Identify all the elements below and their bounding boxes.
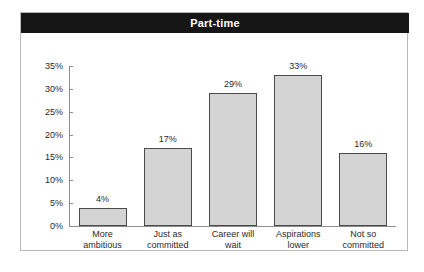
x-axis-category-label: Career willwait bbox=[200, 229, 265, 252]
x-axis-category-label-line: Just as bbox=[135, 229, 200, 240]
bar[interactable] bbox=[209, 93, 257, 226]
x-axis-category-label-line: More bbox=[70, 229, 135, 240]
bar-value-label: 33% bbox=[266, 62, 331, 71]
x-axis-category-label: Just ascommitted bbox=[135, 229, 200, 252]
bar-slot: 16% bbox=[331, 66, 396, 226]
y-axis-tick-label: 30% bbox=[45, 84, 63, 93]
y-axis-tick-labels: 0%5%10%15%20%25%30%35% bbox=[27, 33, 63, 251]
bar[interactable] bbox=[144, 148, 192, 226]
x-axis-category-labels: MoreambitiousJust ascommittedCareer will… bbox=[70, 229, 396, 252]
x-axis-category-label-line: committed bbox=[331, 240, 396, 251]
y-axis-tick-label: 25% bbox=[45, 107, 63, 116]
y-axis-tick-label: 5% bbox=[50, 199, 63, 208]
y-axis-tick-label: 10% bbox=[45, 176, 63, 185]
bar-value-label: 29% bbox=[200, 80, 265, 89]
y-axis-tick-mark bbox=[69, 135, 73, 136]
bar-value-label: 17% bbox=[135, 135, 200, 144]
y-axis-tick-label: 0% bbox=[50, 222, 63, 231]
chart-title-band: Part-time bbox=[21, 13, 409, 33]
y-axis-tick-label: 15% bbox=[45, 153, 63, 162]
y-axis-tick-mark bbox=[69, 112, 73, 113]
x-axis-category-label-line: wait bbox=[200, 240, 265, 251]
y-axis-tick-label: 20% bbox=[45, 130, 63, 139]
y-axis-tick-mark bbox=[69, 180, 73, 181]
x-axis-category-label-line: committed bbox=[135, 240, 200, 251]
bar-series: 4%17%29%33%16% bbox=[70, 66, 396, 226]
x-axis-category-label-line: Not so bbox=[331, 229, 396, 240]
x-axis-category-label: Not socommitted bbox=[331, 229, 396, 252]
y-axis-tick-mark bbox=[69, 89, 73, 90]
plot-area: 0%5%10%15%20%25%30%35% 4%17%29%33%16% Mo… bbox=[21, 33, 409, 251]
x-axis-category-label-line: Aspirations bbox=[266, 229, 331, 240]
y-axis-tick-mark bbox=[69, 66, 73, 67]
chart-title: Part-time bbox=[190, 18, 239, 29]
chart-figure: Part-time 0%5%10%15%20%25%30%35% 4%17%29… bbox=[20, 12, 408, 251]
x-axis-category-label-line: Career will bbox=[200, 229, 265, 240]
x-axis-category-label: Aspirationslower bbox=[266, 229, 331, 252]
x-axis-line bbox=[69, 226, 396, 227]
bar[interactable] bbox=[339, 153, 387, 226]
x-axis-category-label-line: ambitious bbox=[70, 240, 135, 251]
x-axis-category-label-line: lower bbox=[266, 240, 331, 251]
bar[interactable] bbox=[274, 75, 322, 226]
bar-slot: 4% bbox=[70, 66, 135, 226]
bar-value-label: 16% bbox=[331, 140, 396, 149]
y-axis-tick-label: 35% bbox=[45, 62, 63, 71]
bar[interactable] bbox=[79, 208, 127, 226]
bar-value-label: 4% bbox=[70, 195, 135, 204]
y-axis-tick-mark bbox=[69, 157, 73, 158]
bar-slot: 17% bbox=[135, 66, 200, 226]
bar-slot: 29% bbox=[200, 66, 265, 226]
y-axis-tick-mark bbox=[69, 203, 73, 204]
x-axis-category-label: Moreambitious bbox=[70, 229, 135, 252]
y-axis-tick-mark bbox=[69, 226, 73, 227]
bar-slot: 33% bbox=[266, 66, 331, 226]
